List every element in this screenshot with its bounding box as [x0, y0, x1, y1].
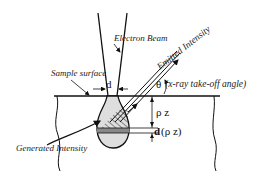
depth-label: ρ z — [156, 106, 169, 118]
takeoff-angle-label: (x-ray take-off angle) — [165, 79, 246, 90]
electron-beam — [98, 13, 127, 96]
emitted-intensity-label: Emitted Intensity — [154, 23, 212, 72]
generated-intensity-label: Generated Intensity — [16, 143, 87, 153]
theta-symbol: θ — [156, 78, 161, 90]
electron-interaction-diagram: Electron Beam Emitted Intensity Sample s… — [0, 0, 274, 171]
emission-layer — [97, 128, 129, 133]
electron-beam-label: Electron Beam — [113, 33, 168, 43]
sample-block — [54, 96, 220, 171]
sample-surface-label: Sample surface — [51, 68, 106, 78]
layer-thickness-label: (ρ z) — [161, 125, 182, 138]
layer-d-label: d — [154, 125, 160, 137]
beam-diameter-label: d — [106, 78, 112, 90]
interaction-volume — [97, 96, 129, 148]
